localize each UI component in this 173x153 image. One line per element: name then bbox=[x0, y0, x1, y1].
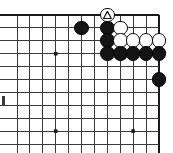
stone-black[interactable] bbox=[152, 46, 167, 61]
stone-black[interactable] bbox=[152, 72, 167, 87]
go-diagram: Go board corner diagram bbox=[0, 0, 173, 153]
left-edge-tick-artifact bbox=[2, 96, 5, 105]
stone-layer bbox=[0, 0, 173, 153]
marked-stone-white[interactable] bbox=[100, 8, 115, 23]
stone-black[interactable] bbox=[74, 21, 89, 36]
